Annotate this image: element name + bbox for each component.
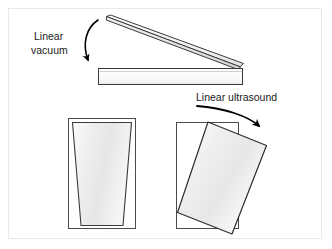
tilted-bar-front-face — [106, 17, 240, 71]
flat-bar-body — [99, 69, 243, 85]
left-frame-group — [69, 119, 136, 229]
figure-canvas: Linear vacuum Linear ultrasound — [0, 0, 332, 249]
vacuum-label-line2: vacuum — [31, 44, 68, 56]
tilted-bar-top-face — [107, 15, 244, 67]
trapezoid-cup — [73, 123, 132, 226]
right-frame-group — [177, 122, 267, 234]
vacuum-label-line1: Linear — [34, 30, 64, 42]
curved-arrow-down-icon — [85, 20, 98, 60]
flat-bar — [99, 69, 243, 85]
top-panel-group — [99, 15, 244, 85]
tilted-bar — [106, 15, 243, 70]
ultrasound-label: Linear ultrasound — [196, 91, 277, 103]
ultrasound-annotation: Linear ultrasound — [196, 91, 277, 126]
vacuum-annotation: Linear vacuum — [31, 20, 98, 60]
figure-root: Linear vacuum Linear ultrasound — [0, 0, 332, 249]
